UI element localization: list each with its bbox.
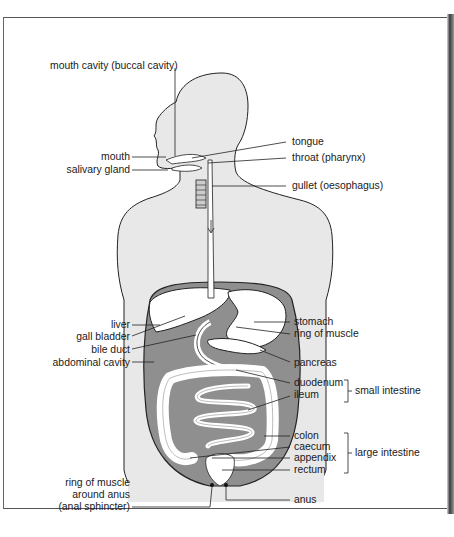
trachea — [196, 180, 206, 208]
label-rectum: rectum — [294, 464, 326, 476]
label-duodenum: duodenum — [294, 377, 343, 389]
label-appendix: appendix — [294, 452, 336, 464]
label-salivary-gland: salivary gland — [30, 164, 130, 176]
label-abdominal-cavity: abdominal cavity — [10, 357, 130, 369]
label-ring-of-muscle: ring of muscle — [294, 328, 359, 340]
label-large-intestine: large intestine — [355, 447, 420, 459]
label-anal-sphincter-line1: ring of muscle — [10, 477, 130, 489]
label-gullet: gullet (oesophagus) — [292, 180, 383, 192]
label-stomach: stomach — [294, 316, 333, 328]
label-anal-sphincter-line2: around anus — [10, 489, 130, 501]
label-mouth-cavity: mouth cavity (buccal cavity) — [50, 60, 178, 72]
label-anal-sphincter-line3: (anal sphincter) — [10, 501, 130, 513]
label-mouth: mouth — [40, 151, 130, 163]
label-throat: throat (pharynx) — [292, 152, 365, 164]
label-bile-duct: bile duct — [30, 344, 130, 356]
anal-sphincter-dot-left — [210, 483, 214, 487]
label-ileum: ileum — [294, 389, 319, 401]
label-tongue: tongue — [292, 136, 324, 148]
anal-sphincter-dot-right — [224, 483, 228, 487]
label-small-intestine: small intestine — [355, 385, 421, 397]
label-gall-bladder: gall bladder — [30, 331, 130, 343]
label-liver: liver — [40, 319, 130, 331]
label-anus: anus — [294, 494, 317, 506]
label-pancreas: pancreas — [294, 357, 337, 369]
